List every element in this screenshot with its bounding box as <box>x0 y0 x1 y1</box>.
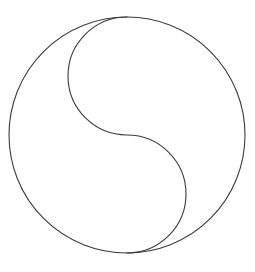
yin-yang-diagram: Taijitu outline Outline-only yin-yang (t… <box>0 0 255 272</box>
s-curve-divider <box>68 17 186 253</box>
figure-canvas: Taijitu outline Outline-only yin-yang (t… <box>0 0 255 272</box>
